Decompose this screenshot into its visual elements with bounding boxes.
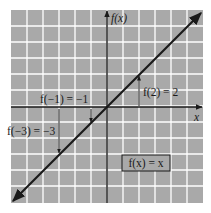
y-axis-label: f(x) (111, 12, 127, 25)
label-f-2: f(2) = 2 (143, 86, 178, 99)
function-box-label: f(x) = x (128, 157, 163, 170)
x-axis-label: x (193, 111, 200, 123)
label-f-neg1: f(−1) = −1 (40, 93, 88, 106)
function-graph: f(x) x f(−1) = −1 f(−3) = −3 f(2) = 2 f(… (0, 0, 211, 213)
label-f-neg3: f(−3) = −3 (7, 125, 55, 138)
